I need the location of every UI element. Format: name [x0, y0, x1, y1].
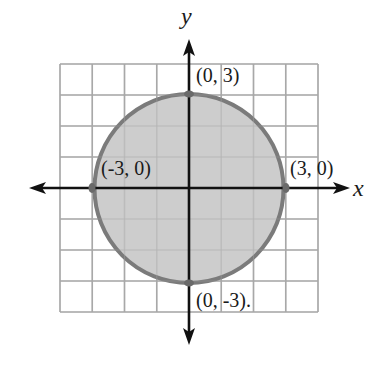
point-marker-bottom: [184, 280, 194, 287]
point-marker-right: [283, 183, 290, 193]
point-marker-top: [184, 91, 194, 98]
point-marker-left: [89, 183, 96, 193]
point-label-bottom: (0, -3).: [196, 289, 251, 312]
x-axis-label: x: [352, 175, 364, 201]
point-label-top: (0, 3): [196, 64, 239, 87]
coordinate-plane-figure: x y (0, 3) (-3, 0) (3, 0) (0, -3).: [0, 0, 385, 366]
point-label-right: (3, 0): [290, 157, 333, 180]
y-axis-label: y: [179, 3, 192, 29]
point-label-left: (-3, 0): [101, 157, 151, 180]
